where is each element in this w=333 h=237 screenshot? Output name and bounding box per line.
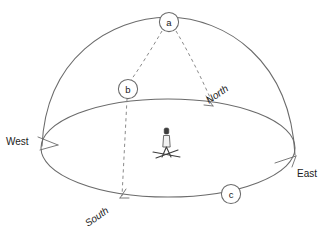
dashed-meridian-north [176, 31, 212, 102]
label-east: East [297, 168, 317, 179]
observer-body [163, 136, 170, 148]
node-b-label: b [125, 84, 130, 95]
node-a-label: a [166, 17, 172, 28]
node-a[interactable]: a [159, 12, 178, 31]
label-west: West [6, 136, 29, 147]
node-b[interactable]: b [118, 79, 137, 98]
dome-arc [42, 17, 295, 155]
dashed-arc-a-to-b [131, 31, 162, 80]
label-south: South [83, 204, 111, 228]
node-c[interactable]: c [221, 184, 240, 203]
observer-ground-line-2 [156, 150, 178, 158]
horizon-ellipse [41, 99, 295, 197]
celestial-sphere-diagram: a b c West East North South [0, 0, 333, 237]
node-c-label: c [229, 189, 234, 200]
celestial-sphere-figure: a b c West East North South [0, 0, 333, 237]
observer-head [164, 128, 169, 134]
observer-figure [153, 128, 180, 158]
dashed-vertical-b-to-south [122, 99, 127, 196]
